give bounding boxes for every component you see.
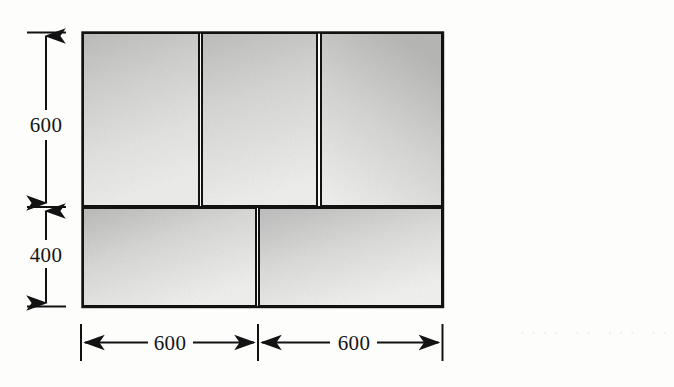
- bottom-block-2: [259, 208, 442, 306]
- dim-label-left-bay: 600: [154, 331, 187, 355]
- dim-upper-course-600: 600: [30, 36, 63, 203]
- dim-lower-course-400: 400: [30, 211, 63, 303]
- wall-assembly: [83, 33, 444, 308]
- bottom-block-1: [83, 208, 256, 306]
- dim-left-bay-600: 600: [85, 331, 254, 355]
- dim-label-upper-course: 600: [30, 113, 63, 137]
- horizontal-dimension-chain: 600 600: [81, 324, 443, 361]
- top-block-3: [321, 33, 442, 206]
- vertical-dimension-chain: 600 400: [27, 33, 66, 307]
- dim-label-lower-course: 400: [30, 243, 63, 267]
- top-block-2: [202, 33, 317, 206]
- top-course: [83, 33, 442, 206]
- bottom-course: [83, 208, 442, 306]
- top-block-1: [83, 33, 199, 206]
- dim-right-bay-600: 600: [262, 331, 439, 355]
- masonry-wall-diagram: 600 400 600 600: [0, 0, 674, 387]
- dim-label-right-bay: 600: [338, 331, 371, 355]
